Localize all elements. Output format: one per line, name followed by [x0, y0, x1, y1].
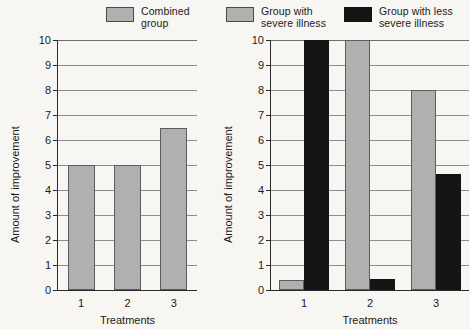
y-axis-tick-label: 8 [258, 84, 264, 96]
y-axis-tick-label: 8 [45, 84, 51, 96]
x-axis-tick-label: 1 [301, 297, 307, 309]
legend-entry-less-severe-illness: Group with less severe illness [344, 6, 453, 29]
y-axis-title: Amount of improvement [222, 126, 234, 243]
y-axis-tick-label: 7 [45, 109, 51, 121]
y-axis-tick-label: 0 [45, 284, 51, 296]
bar [279, 280, 304, 290]
chart-panel-b: Group with severe illness Group with les… [210, 0, 470, 329]
y-axis-tick-label: 0 [258, 284, 264, 296]
y-axis-tick-label: 4 [45, 184, 51, 196]
y-axis-tick-label: 10 [39, 34, 51, 46]
y-axis-tick-label: 1 [258, 259, 264, 271]
legend-swatch-icon [344, 7, 372, 22]
bar [345, 40, 370, 290]
bar [114, 165, 141, 290]
y-axis-tick-label: 4 [258, 184, 264, 196]
y-axis-tick-label: 2 [45, 234, 51, 246]
x-axis-title: Treatments [342, 314, 397, 326]
y-axis-tick [53, 290, 58, 291]
y-axis-tick-label: 3 [258, 209, 264, 221]
bar-group [68, 40, 95, 290]
plot-area-b: 012345678910 123 Treatments (b) [270, 40, 469, 291]
x-axis-title: Treatments [100, 314, 155, 326]
y-axis-tick-label: 5 [45, 159, 51, 171]
legend-swatch-icon [106, 7, 134, 22]
bar [370, 279, 395, 290]
y-axis-tick-label: 1 [45, 259, 51, 271]
bar [304, 40, 329, 290]
x-axis-tick-label: 3 [171, 297, 177, 309]
bar [68, 165, 95, 290]
bar [436, 174, 461, 290]
legend-label: Group with less severe illness [379, 6, 453, 29]
y-axis-tick-label: 9 [258, 59, 264, 71]
y-axis-tick-label: 6 [258, 134, 264, 146]
y-axis-tick-label: 5 [258, 159, 264, 171]
bar-group [114, 40, 141, 290]
legend-panel-b: Group with severe illness Group with les… [226, 6, 453, 29]
plot-area-a: 012345678910 123 Treatments (a) [57, 40, 197, 291]
y-axis-tick-label: 2 [258, 234, 264, 246]
x-axis-tick-label: 3 [433, 297, 439, 309]
x-axis-tick-label: 2 [124, 297, 130, 309]
legend-entry-combined-group: Combined group [106, 6, 190, 29]
bar [160, 128, 187, 291]
y-axis-title: Amount of improvement [9, 126, 21, 243]
x-axis-tick-label: 1 [78, 297, 84, 309]
y-axis-tick-label: 6 [45, 134, 51, 146]
y-axis-tick-label: 9 [45, 59, 51, 71]
bar-group [411, 40, 461, 290]
y-axis-tick-label: 10 [252, 34, 264, 46]
bar-group [279, 40, 329, 290]
legend-panel-a: Combined group [106, 6, 190, 29]
bars-b [271, 40, 469, 290]
y-axis-tick-label: 7 [258, 109, 264, 121]
y-axis-tick-label: 3 [45, 209, 51, 221]
bar [411, 90, 436, 290]
legend-entry-severe-illness: Group with severe illness [226, 6, 326, 29]
bars-a [58, 40, 197, 290]
bar-group [345, 40, 395, 290]
x-axis-tick-label: 2 [367, 297, 373, 309]
legend-label: Combined group [141, 6, 190, 29]
bar-chart-figure: Combined group 012345678910 123 Treatmen… [0, 0, 470, 329]
bar-group [160, 40, 187, 290]
legend-label: Group with severe illness [261, 6, 326, 29]
legend-swatch-icon [226, 7, 254, 22]
y-axis-tick [266, 290, 271, 291]
chart-panel-a: Combined group 012345678910 123 Treatmen… [0, 0, 210, 329]
